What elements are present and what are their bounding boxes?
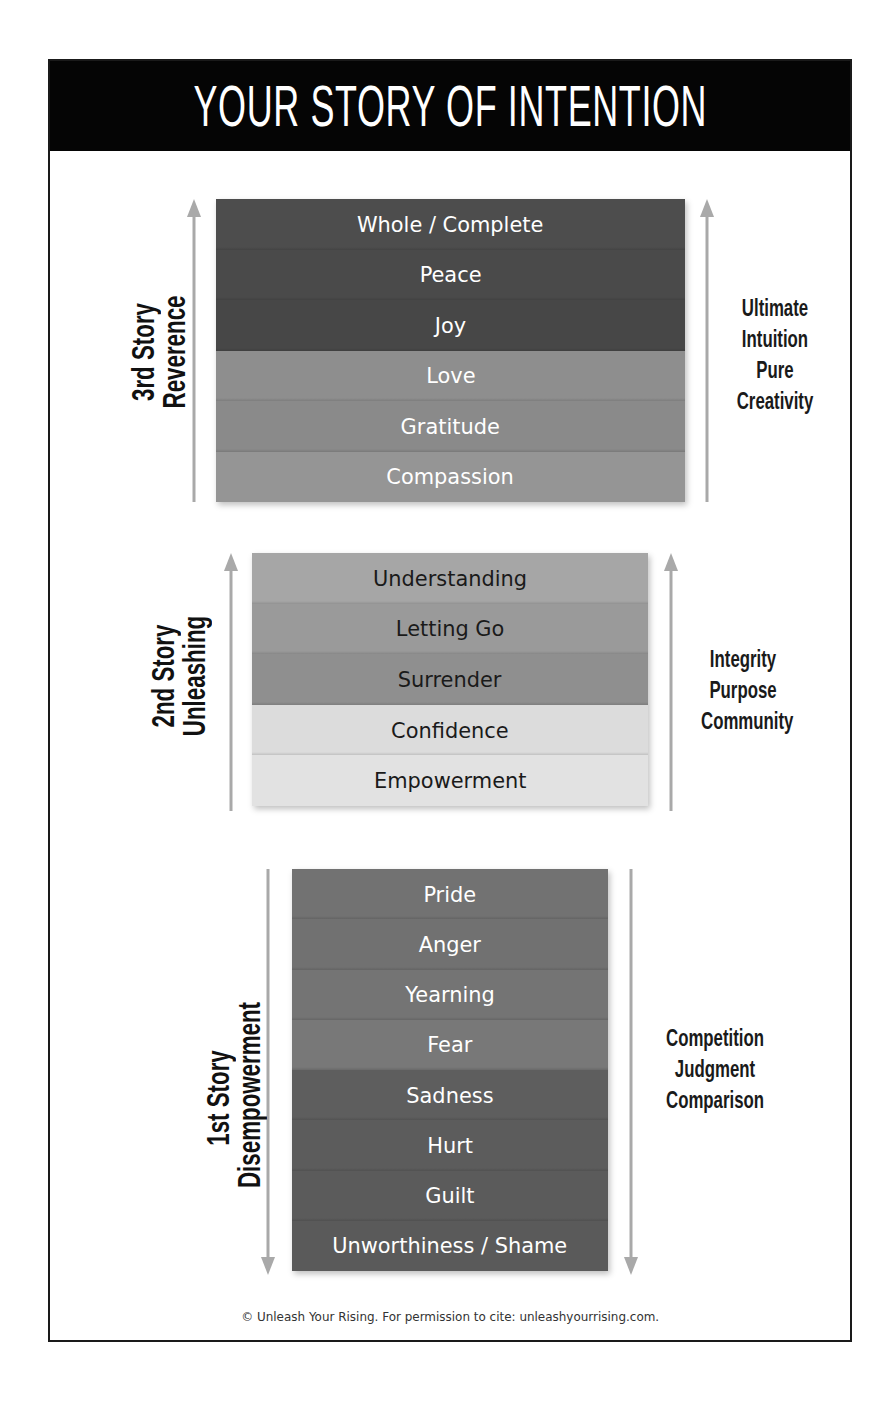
levels-stack-second: UnderstandingLetting GoSurrenderConfiden…: [252, 553, 648, 806]
level-label: Yearning: [405, 982, 494, 1007]
level-label: Sadness: [406, 1083, 493, 1108]
quality-item: Judgment: [666, 1053, 764, 1084]
level-label: Whole / Complete: [357, 212, 543, 237]
quality-item: Creativity: [733, 385, 817, 416]
level-band: Pride: [292, 869, 608, 919]
copyright-text: © Unleash Your Rising. For permission to…: [241, 1309, 659, 1324]
level-band: Peace: [216, 250, 685, 301]
arrow-down-icon: [624, 869, 638, 1275]
level-band: Hurt: [292, 1120, 608, 1170]
levels-stack-third: Whole / CompletePeaceJoyLoveGratitudeCom…: [216, 199, 685, 502]
story-name: Reverence: [159, 280, 190, 424]
level-label: Empowerment: [374, 768, 526, 793]
level-band: Understanding: [252, 553, 648, 604]
story-label-first: 1st Story Disempowerment: [203, 973, 267, 1223]
story-name: Unleashing: [179, 604, 210, 748]
quality-item: Ultimate: [733, 292, 817, 323]
story-name: Disempowerment: [234, 1008, 265, 1188]
level-band: Unworthiness / Shame: [292, 1221, 608, 1271]
level-label: Love: [426, 363, 475, 388]
level-band: Empowerment: [252, 755, 648, 806]
level-label: Surrender: [398, 667, 502, 692]
level-band: Confidence: [252, 705, 648, 756]
level-label: Guilt: [425, 1183, 474, 1208]
level-label: Joy: [435, 313, 466, 338]
level-label: Pride: [424, 882, 477, 907]
page-title: YOUR STORY OF INTENTION: [193, 77, 707, 135]
quality-item: Comparison: [666, 1084, 764, 1115]
story-label-second: 2nd Story Unleashing: [148, 576, 212, 776]
level-band: Gratitude: [216, 401, 685, 452]
quality-item: Pure: [733, 354, 817, 385]
level-band: Love: [216, 351, 685, 402]
level-band: Anger: [292, 919, 608, 969]
story-number: 1st Story: [203, 1008, 234, 1188]
level-label: Gratitude: [401, 414, 500, 439]
level-band: Whole / Complete: [216, 199, 685, 250]
level-label: Anger: [419, 932, 481, 957]
level-label: Letting Go: [396, 616, 504, 641]
level-band: Compassion: [216, 452, 685, 503]
level-label: Unworthiness / Shame: [332, 1233, 567, 1258]
qualities-third: UltimateIntuitionPureCreativity: [715, 292, 835, 416]
arrow-up-icon: [664, 553, 678, 811]
level-label: Hurt: [427, 1133, 473, 1158]
quality-item: Purpose: [701, 674, 785, 705]
level-label: Confidence: [391, 718, 509, 743]
level-band: Sadness: [292, 1070, 608, 1120]
copyright-footer: © Unleash Your Rising. For permission to…: [50, 1309, 850, 1324]
story-number: 2nd Story: [148, 604, 179, 748]
levels-stack-first: PrideAngerYearningFearSadnessHurtGuiltUn…: [292, 869, 608, 1271]
quality-item: Integrity: [701, 643, 785, 674]
level-band: Guilt: [292, 1171, 608, 1221]
level-band: Surrender: [252, 654, 648, 705]
quality-item: Community: [701, 705, 785, 736]
quality-item: Competition: [666, 1022, 764, 1053]
level-label: Peace: [420, 262, 482, 287]
level-band: Joy: [216, 300, 685, 351]
level-band: Yearning: [292, 970, 608, 1020]
level-label: Fear: [427, 1032, 472, 1057]
title-bar: YOUR STORY OF INTENTION: [50, 61, 850, 151]
level-band: Letting Go: [252, 604, 648, 655]
level-label: Understanding: [373, 566, 527, 591]
arrow-up-icon: [224, 553, 238, 811]
quality-item: Intuition: [733, 323, 817, 354]
level-label: Compassion: [387, 464, 514, 489]
level-band: Fear: [292, 1020, 608, 1070]
qualities-first: CompetitionJudgmentComparison: [645, 1022, 785, 1115]
story-label-third: 3rd Story Reverence: [128, 252, 192, 452]
story-number: 3rd Story: [128, 280, 159, 424]
arrow-up-icon: [700, 199, 714, 502]
qualities-second: IntegrityPurposeCommunity: [683, 643, 803, 736]
